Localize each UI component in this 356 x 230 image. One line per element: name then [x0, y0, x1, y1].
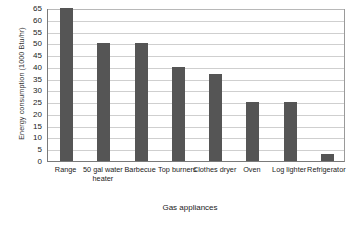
- bar: [97, 43, 110, 161]
- y-axis-tick-label: 60: [33, 17, 42, 25]
- bar-chart-figure: Energy consumption (1000 Btu/hr) 0510152…: [0, 0, 356, 230]
- y-axis-tick-label: 50: [33, 40, 42, 48]
- y-axis-tick-label: 40: [33, 64, 42, 72]
- y-axis-tick-label: 15: [33, 123, 42, 131]
- y-axis-tick-label: 5: [38, 146, 42, 154]
- y-axis-tick-label: 65: [33, 5, 42, 13]
- y-axis-tick-label: 35: [33, 76, 42, 84]
- x-axis-tick-labels: Range50 gal water heaterBarbecueTop burn…: [47, 165, 347, 205]
- x-axis-title: Gas appliances: [40, 203, 340, 212]
- y-axis-title: Energy consumption (1000 Btu/hr): [17, 4, 26, 164]
- y-axis-tick-label: 30: [33, 87, 42, 95]
- y-axis-tick-label: 25: [33, 99, 42, 107]
- bars-layer: [48, 9, 344, 161]
- y-axis-tick-label: 20: [33, 111, 42, 119]
- y-axis-tick-label: 10: [33, 134, 42, 142]
- bar: [284, 102, 297, 161]
- bar: [246, 102, 259, 161]
- bar: [60, 8, 73, 161]
- bar: [321, 154, 334, 161]
- y-axis-tick-label: 45: [33, 52, 42, 60]
- x-axis-tick-label: Refrigerator: [300, 165, 352, 174]
- bar: [172, 67, 185, 161]
- y-axis-tick-label: 55: [33, 29, 42, 37]
- bar: [135, 43, 148, 161]
- y-axis-tick-labels: 05101520253035404550556065: [26, 9, 42, 162]
- plot-area: [47, 9, 345, 162]
- bar: [209, 74, 222, 161]
